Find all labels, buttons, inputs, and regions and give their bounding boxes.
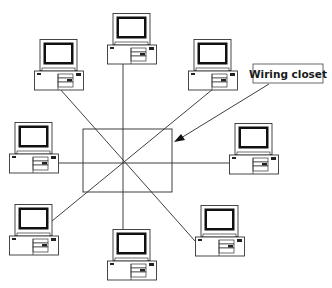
star-network-diagram: Wiring closet: [0, 0, 332, 288]
computer-top-center: [108, 14, 157, 65]
arrowhead-icon: [174, 134, 185, 142]
computer-middle-left: [10, 123, 59, 174]
computer-middle-right: [230, 124, 279, 175]
computer-top-right: [189, 40, 238, 91]
cable-top-left: [60, 89, 195, 241]
computer-bottom-center: [108, 230, 157, 281]
cable-top-right: [52, 89, 213, 221]
wiring-closet-hub: [83, 129, 172, 192]
callout-label: Wiring closet: [249, 68, 327, 80]
computer-top-left: [35, 40, 84, 91]
computer-bottom-left: [10, 205, 59, 256]
computer-bottom-right: [196, 206, 245, 257]
